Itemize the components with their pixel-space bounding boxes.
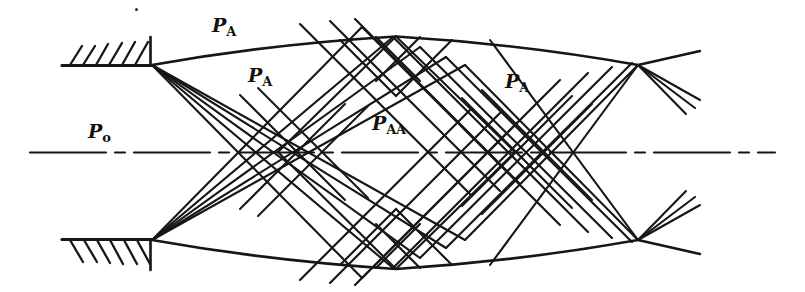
exit-fan-top-right — [638, 65, 700, 114]
label-p-o-left: Po — [88, 120, 110, 145]
central-lattice-falling — [300, 19, 520, 194]
wave-diagram-canvas — [0, 0, 805, 292]
label-subscript: o — [102, 130, 110, 145]
wave-diagram-figure: PA PA Po PAA PA — [0, 0, 805, 292]
label-p-a-right: PA — [505, 70, 529, 95]
label-base: P — [372, 112, 386, 134]
converging-waves-bottom-right — [465, 40, 638, 240]
label-p-a-top-left: PA — [212, 14, 236, 39]
converging-waves-top-right — [465, 65, 638, 265]
exit-fan-bottom-right — [638, 191, 700, 240]
label-subscript: A — [226, 24, 236, 39]
label-base: P — [212, 14, 226, 36]
label-p-a-mid-left: PA — [248, 64, 272, 89]
wall-bottom-left — [62, 240, 152, 271]
jet-boundary-lower — [152, 240, 700, 269]
label-p-aa-center: PAA — [372, 112, 405, 137]
label-subscript: A — [519, 80, 529, 95]
label-base: P — [248, 64, 262, 86]
scan-speck — [135, 8, 138, 11]
label-base: P — [88, 120, 102, 142]
label-base: P — [505, 70, 519, 92]
wall-top-left — [62, 37, 152, 66]
label-subscript: A — [262, 74, 272, 89]
jet-boundary-upper — [152, 37, 700, 66]
label-subscript: AA — [386, 122, 405, 137]
